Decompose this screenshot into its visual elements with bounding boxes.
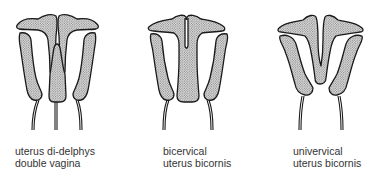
- figure-univervical-bicornis: [278, 15, 363, 130]
- figure-uterus-didelphys: [17, 15, 99, 130]
- right-outer-wall: [204, 34, 228, 100]
- caption-uterus-didelphys: uterus di-delphys double vagina: [15, 145, 95, 169]
- caption-line-2: uterus bicornis: [163, 157, 231, 169]
- caption-bicervical-bicornis: bicervical uterus bicornis: [163, 145, 231, 169]
- right-outer-wall: [73, 33, 96, 100]
- caption-line-1: uterus di-delphys: [15, 145, 95, 157]
- right-outer-wall: [329, 35, 362, 95]
- caption-line-1: bicervical: [163, 145, 231, 157]
- left-outer-wall: [280, 35, 313, 95]
- figure-bicervical-bicornis: [148, 15, 227, 130]
- caption-line-2: double vagina: [15, 157, 95, 169]
- left-vagina-tube-inner: [34, 100, 39, 130]
- caption-line-1: univervical: [293, 145, 361, 157]
- left-outer-wall: [150, 34, 174, 100]
- left-outer-wall: [19, 33, 42, 100]
- caption-univervical-bicornis: univervical uterus bicornis: [293, 145, 361, 169]
- caption-line-2: uterus bicornis: [293, 157, 361, 169]
